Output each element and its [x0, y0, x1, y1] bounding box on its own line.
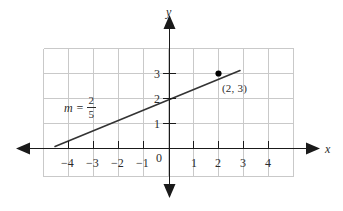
y-tick-label-1: 1: [154, 118, 160, 130]
x-tick-label-neg2: −2: [111, 157, 124, 169]
origin-label: 0: [156, 152, 162, 164]
slope-denominator: 5: [88, 109, 96, 120]
y-axis-down-arrow-icon: [164, 184, 176, 198]
plotted-point-2-3: [215, 70, 221, 76]
y-tick-label-3: 3: [154, 68, 160, 80]
slope-numerator: 2: [88, 95, 96, 106]
x-tick-label-1: 1: [191, 157, 197, 169]
slope-fraction: 2 5: [87, 95, 96, 120]
coordinate-plane-svg: [0, 0, 343, 211]
x-axis-name: x: [325, 143, 330, 155]
x-tick-label-2: 2: [215, 157, 221, 169]
x-tick-label-neg3: −3: [86, 157, 99, 169]
point-coordinate-label: (2, 3): [222, 83, 247, 94]
x-axis-left-arrow-icon: [16, 143, 30, 155]
x-tick-label-neg1: −1: [136, 157, 149, 169]
y-tick-label-2: 2: [154, 93, 160, 105]
slope-prefix: m =: [64, 102, 84, 114]
graph-figure: [0, 0, 343, 211]
x-tick-label-neg4: −4: [61, 157, 74, 169]
x-tick-label-4: 4: [265, 157, 271, 169]
x-tick-label-3: 3: [240, 157, 246, 169]
slope-annotation: m = 2 5: [64, 95, 96, 120]
y-axis-name: y: [166, 6, 171, 18]
x-axis-right-arrow-icon: [306, 143, 320, 155]
